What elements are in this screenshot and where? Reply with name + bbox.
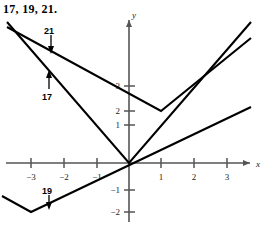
x-axis-label: x xyxy=(255,159,260,169)
x-tick-label-2: 2 xyxy=(192,172,197,182)
y-tick-label-1: 1 xyxy=(116,120,121,130)
figure-page: 17, 19, 21. xyxy=(0,0,268,227)
y-tick-label-2: 2 xyxy=(116,106,121,116)
arrow-head-19 xyxy=(46,202,52,210)
x-axis-tick-labels: −3 −2 −1 1 2 3 xyxy=(26,172,230,182)
y-axis-arrowhead xyxy=(126,20,132,27)
y-tick-label--1: −1 xyxy=(110,185,120,195)
x-tick-label-1: 1 xyxy=(159,172,164,182)
x-axis-arrowhead xyxy=(243,160,250,166)
y-tick-label--2: −2 xyxy=(110,207,120,217)
x-tick-label-3: 3 xyxy=(225,172,230,182)
coordinate-graph: −3 −2 −1 1 2 3 1 2 3 −1 −2 x y xyxy=(0,0,268,227)
x-tick-label--3: −3 xyxy=(26,172,36,182)
curve-label-17: 17 xyxy=(42,92,52,102)
annotation-arrows xyxy=(46,35,54,210)
y-axis-tick-labels: 1 2 3 −1 −2 xyxy=(110,81,120,217)
y-axis-label: y xyxy=(131,10,136,20)
curve-label-19: 19 xyxy=(42,186,52,196)
curve-label-21: 21 xyxy=(44,26,54,36)
x-tick-label--2: −2 xyxy=(59,172,69,182)
